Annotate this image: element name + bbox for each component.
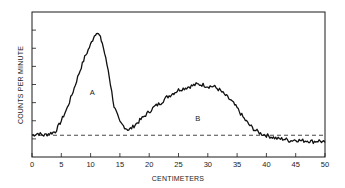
x-tick-label: 0 <box>30 160 34 169</box>
y-axis-title: COUNTS PER MINUTE <box>17 46 24 124</box>
x-axis-ticks <box>32 153 325 157</box>
peak-label-b: B <box>195 114 200 123</box>
x-axis-tick-labels: 05101520253035404550 <box>30 160 329 169</box>
x-tick-label: 40 <box>262 160 270 169</box>
x-tick-label: 45 <box>292 160 300 169</box>
peak-annotations: AB <box>90 88 200 122</box>
chart: 05101520253035404550 AB CENTIMETERS COUN… <box>0 0 345 188</box>
x-tick-label: 25 <box>174 160 182 169</box>
y-axis-ticks <box>32 30 36 139</box>
counts-series-line <box>32 34 325 144</box>
x-axis-title: CENTIMETERS <box>152 175 204 182</box>
x-tick-label: 5 <box>59 160 63 169</box>
x-tick-label: 50 <box>321 160 329 169</box>
x-tick-label: 15 <box>116 160 124 169</box>
x-tick-label: 30 <box>204 160 212 169</box>
peak-label-a: A <box>90 88 95 97</box>
x-tick-label: 20 <box>145 160 153 169</box>
x-tick-label: 35 <box>233 160 241 169</box>
x-tick-label: 10 <box>86 160 94 169</box>
